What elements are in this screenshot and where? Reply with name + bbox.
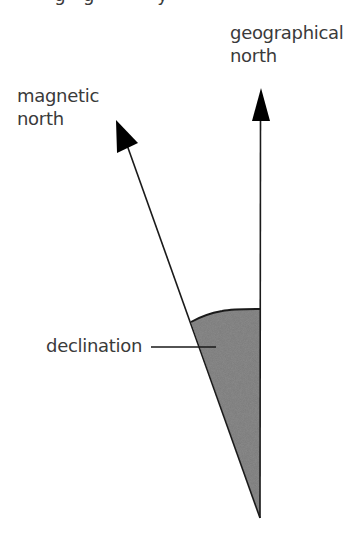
clipped-caption-glyphs: g g y xyxy=(20,0,168,5)
geographical-north-label: geographical north xyxy=(230,21,344,67)
clipped-caption: g g y xyxy=(20,0,168,6)
declination-label: declination xyxy=(46,334,142,357)
arrowhead-icon xyxy=(252,88,270,121)
magnetic-north-label: magnetic north xyxy=(17,84,99,130)
geographical-north-label-line1: geographical xyxy=(230,21,344,44)
geographical-north-label-line2: north xyxy=(230,44,344,67)
magnetic-north-label-line2: north xyxy=(17,107,99,130)
diagram-canvas xyxy=(0,0,345,544)
arrowhead-icon xyxy=(116,120,138,153)
magnetic-north-label-line1: magnetic xyxy=(17,84,99,107)
declination-diagram: g g y geographical north magnetic north … xyxy=(0,0,345,544)
